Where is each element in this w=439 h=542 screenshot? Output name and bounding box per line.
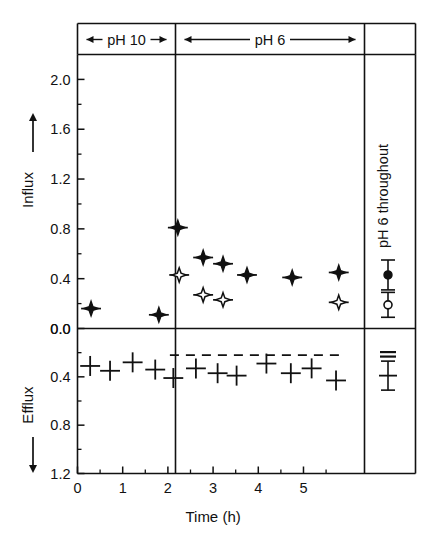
xtick-label-1: 1 (119, 480, 127, 496)
ytick-label-influx-2: 0.8 (50, 221, 70, 237)
xtick-label-4: 4 (254, 480, 262, 496)
right-influx-filled-marker (384, 271, 392, 279)
y-axis-title-efflux: Efflux (19, 386, 36, 424)
xtick-label-3: 3 (209, 480, 217, 496)
x-axis-title: Time (h) (185, 508, 240, 525)
band-label-ph10: pH 10 (107, 32, 146, 48)
ytick-label-efflux-2: 0.8 (50, 417, 70, 433)
right-influx-open-marker (384, 301, 392, 309)
xtick-label-5: 5 (299, 480, 307, 496)
band-label-ph6: pH 6 (255, 32, 286, 48)
right-panel-label: pH 6 throughout (375, 144, 391, 248)
figure-container: pH 10pH 6pH 6 throughout 0.00.40.81.21.6… (0, 0, 439, 542)
ytick-label-efflux-1: 0.4 (50, 369, 70, 385)
ytick-label-efflux-0: 0.0 (50, 321, 70, 337)
ytick-label-influx-3: 1.2 (50, 171, 70, 187)
ytick-label-efflux-3: 1.2 (50, 466, 70, 482)
xtick-label-2: 2 (164, 480, 172, 496)
y-axis-title-influx: Influx (19, 172, 36, 208)
chart-svg: pH 10pH 6pH 6 throughout 0.00.40.81.21.6… (0, 0, 439, 542)
xtick-label-0: 0 (73, 480, 81, 496)
ytick-label-influx-5: 2.0 (50, 72, 70, 88)
ytick-label-influx-1: 0.4 (50, 271, 70, 287)
ytick-label-influx-4: 1.6 (50, 121, 70, 137)
